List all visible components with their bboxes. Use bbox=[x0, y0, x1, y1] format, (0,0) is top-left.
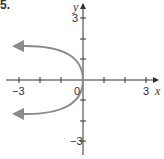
y-tick-label-neg3: −3 bbox=[70, 135, 83, 147]
x-tick-label-neg3: −3 bbox=[12, 85, 25, 97]
y-tick-label-3: 3 bbox=[72, 12, 78, 24]
x-tick-label-3: 3 bbox=[143, 85, 149, 97]
x-tick-label-zero: 0 bbox=[74, 85, 80, 97]
x-axis-label: x bbox=[154, 84, 161, 98]
graph: −3 0 3 x y 3 −3 bbox=[0, 0, 164, 159]
